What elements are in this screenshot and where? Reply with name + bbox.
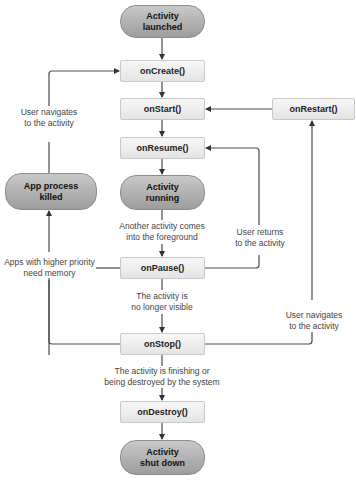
edge-label-no-longer-visible: The activity is no longer visible xyxy=(117,291,207,313)
arrow-onstop-to-onrestart-a xyxy=(205,332,312,344)
label-line: to the activity xyxy=(228,238,292,249)
label-line: Apps with higher priority xyxy=(2,257,97,268)
label-line: The activity is finishing or xyxy=(97,366,227,377)
node-onstart: onStart() xyxy=(120,98,205,120)
node-label: onCreate() xyxy=(140,66,185,77)
edge-label-higher-priority: Apps with higher priority need memory xyxy=(2,257,97,279)
label-line: into the foreground xyxy=(102,232,222,243)
label-line: Another activity comes xyxy=(102,221,222,232)
edge-label-user-navigates-right: User navigates to the activity xyxy=(280,310,348,332)
node-activity-shut-down: Activity shut down xyxy=(120,440,205,475)
label-line: to the activity xyxy=(4,118,94,129)
node-onresume: onResume() xyxy=(120,137,205,159)
label-line: The activity is xyxy=(117,291,207,302)
node-activity-running: Activity running xyxy=(120,175,205,210)
arrow-onpause-to-onresume-a xyxy=(205,255,259,268)
node-label: Activity running xyxy=(146,182,180,204)
node-label: Activity launched xyxy=(143,11,183,33)
edge-label-finishing: The activity is finishing or being destr… xyxy=(97,366,227,388)
node-label: onDestroy() xyxy=(137,407,188,418)
label-line: User returns xyxy=(228,227,292,238)
edge-label-user-navigates-left: User navigates to the activity xyxy=(4,107,94,129)
node-label: onStart() xyxy=(144,104,182,115)
arrow-onpause-to-onresume-b xyxy=(206,148,259,225)
node-label: onPause() xyxy=(141,263,185,274)
node-label: onResume() xyxy=(136,143,188,154)
node-activity-launched: Activity launched xyxy=(120,5,205,38)
node-label: onStop() xyxy=(144,339,181,350)
node-label: Activity shut down xyxy=(140,447,185,469)
label-line: no longer visible xyxy=(117,302,207,313)
label-line: User navigates xyxy=(4,107,94,118)
node-onrestart: onRestart() xyxy=(272,98,355,120)
node-ondestroy: onDestroy() xyxy=(120,401,205,423)
node-label: onRestart() xyxy=(289,104,337,115)
node-app-process-killed: App process killed xyxy=(5,173,97,210)
arrow-killed-to-oncreate-b xyxy=(49,71,119,106)
label-line: being destroyed by the system xyxy=(97,377,227,388)
node-onstop: onStop() xyxy=(120,333,205,355)
node-onpause: onPause() xyxy=(120,257,205,279)
node-label: App process killed xyxy=(24,181,79,203)
edge-label-user-returns: User returns to the activity xyxy=(228,227,292,249)
label-line: User navigates xyxy=(280,310,348,321)
label-line: need memory xyxy=(2,268,97,279)
edge-label-another-activity: Another activity comes into the foregrou… xyxy=(102,221,222,243)
arrow-onstop-to-killed xyxy=(49,278,120,344)
label-line: to the activity xyxy=(280,321,348,332)
node-oncreate: onCreate() xyxy=(120,60,205,82)
